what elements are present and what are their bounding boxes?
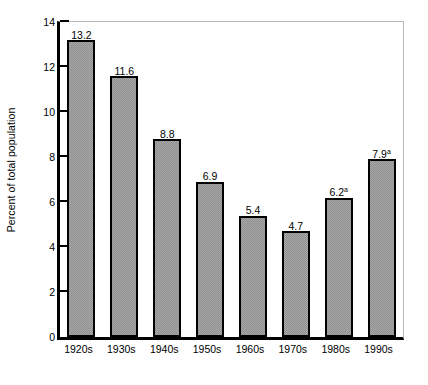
bar: 11.6 (110, 76, 138, 337)
bar: 5.4 (239, 216, 267, 338)
y-axis-tick-label: 2 (49, 286, 55, 298)
bar: 8.8 (153, 139, 181, 337)
x-axis-tick-label: 1960s (236, 343, 265, 355)
x-axis-tick-label: 1920s (64, 343, 93, 355)
plot-area: 02468101214 13.211.68.86.95.44.76.2a7.9a (57, 21, 404, 340)
x-axis-tick-label: 1990s (364, 343, 393, 355)
bar: 6.9 (196, 182, 224, 337)
x-axis-tick-label: 1970s (279, 343, 308, 355)
bar-value-label: 4.7 (289, 221, 304, 232)
footnote-marker: a (387, 147, 391, 154)
y-axis-tick-label: 6 (49, 196, 55, 208)
x-axis-tick-label: 1950s (193, 343, 222, 355)
bar-chart-figure: Percent of total population 02468101214 … (0, 0, 428, 385)
bar: 13.2 (67, 40, 95, 337)
bar-value-label: 5.4 (246, 205, 261, 216)
y-axis-tick-label: 14 (43, 16, 55, 28)
x-axis-tick-label: 1930s (107, 343, 136, 355)
bars-layer: 13.211.68.86.95.44.76.2a7.9a (60, 22, 403, 337)
y-axis-title: Percent of total population (0, 0, 22, 340)
bar-value-label: 6.9 (203, 171, 218, 182)
bar-value-label: 6.2a (329, 187, 348, 198)
bar-value-label: 11.6 (114, 66, 134, 77)
bar: 6.2a (325, 198, 353, 338)
y-axis-title-text: Percent of total population (5, 108, 17, 233)
y-axis-tick-label: 10 (43, 106, 55, 118)
y-axis-tick-label: 4 (49, 241, 55, 253)
x-axis-tick-label: 1980s (321, 343, 350, 355)
y-axis-tick-label: 0 (49, 331, 55, 343)
x-axis-tick-label: 1940s (150, 343, 179, 355)
footnote-marker: a (344, 186, 348, 193)
bar: 4.7 (282, 231, 310, 337)
bar: 7.9a (368, 159, 396, 337)
bar-value-label: 7.9a (372, 149, 391, 160)
y-axis-tick-label: 8 (49, 151, 55, 163)
bar-value-label: 8.8 (160, 129, 175, 140)
y-axis-tick-label: 12 (43, 61, 55, 73)
bar-value-label: 13.2 (71, 30, 91, 41)
x-axis-tick-labels: 1920s1930s1940s1950s1960s1970s1980s1990s (57, 343, 404, 363)
